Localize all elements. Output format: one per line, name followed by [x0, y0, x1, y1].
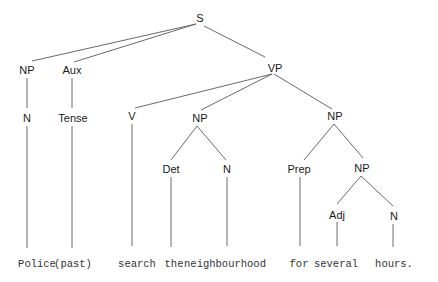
node-label-vp: VP [268, 62, 283, 74]
tree-edge [337, 176, 361, 204]
tree-edge [74, 24, 196, 62]
sentence-word: hours. [375, 258, 413, 270]
node-label-np3: NP [327, 110, 342, 122]
node-label-np4: NP [354, 162, 369, 174]
node-label-det: Det [162, 163, 179, 175]
tree-edge [304, 124, 334, 160]
sentence-word: for [290, 258, 309, 270]
tree-edge [361, 176, 393, 206]
node-label-adj: Adj [329, 209, 345, 221]
syntax-tree-diagram: SNPAuxVPNTenseVNPNPDetNPrepNPAdjN Police… [0, 0, 438, 282]
sentence-word: the [165, 258, 184, 270]
node-label-n2: N [223, 163, 231, 175]
sentence-word: Police [18, 258, 56, 270]
sentence-word: neighbourhood [184, 258, 266, 270]
tree-edge [32, 24, 196, 61]
node-label-aux: Aux [63, 64, 82, 76]
sentence-word: several [314, 258, 358, 270]
tree-edge [204, 26, 265, 57]
sentence-word: search [118, 258, 156, 270]
tree-nodes: SNPAuxVPNTenseVNPNPDetNPrepNPAdjN [19, 12, 398, 222]
tree-edge [274, 74, 332, 109]
node-label-np1: NP [19, 64, 34, 76]
node-label-n1: N [23, 112, 31, 124]
node-label-n3: N [390, 210, 398, 222]
sentence-words: Police(past)searchtheneighbourhoodforsev… [18, 258, 413, 270]
node-label-prep: Prep [287, 163, 310, 175]
tree-edge [197, 126, 226, 160]
tree-edge [135, 74, 272, 108]
sentence-word: (past) [54, 258, 92, 270]
tree-edge [171, 126, 197, 160]
node-label-v: V [128, 110, 136, 122]
tree-edge [334, 124, 363, 158]
node-label-s: S [196, 12, 203, 24]
node-label-tense: Tense [58, 112, 87, 124]
tree-edge [201, 74, 272, 110]
node-label-np2: NP [192, 112, 207, 124]
